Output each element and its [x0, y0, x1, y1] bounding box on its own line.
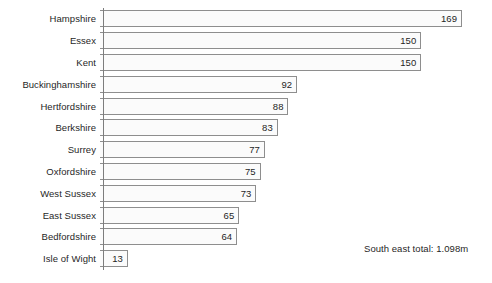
category-label: Essex [0, 35, 100, 46]
bar-value-label: 150 [400, 57, 416, 68]
bar-value-label: 83 [262, 122, 273, 133]
bar-value-label: 73 [241, 188, 252, 199]
bar-row: West Sussex73 [0, 182, 492, 204]
y-axis-line [103, 8, 104, 270]
category-label: Hampshire [0, 13, 100, 24]
bar: 13 [100, 250, 128, 267]
bar-value-label: 75 [245, 166, 256, 177]
bar: 83 [100, 119, 278, 136]
bar-row: Hertfordshire88 [0, 95, 492, 117]
bar: 65 [100, 207, 239, 224]
bar-value-label: 88 [273, 101, 284, 112]
bar-track: 77 [100, 139, 492, 161]
bar-row: Essex150 [0, 30, 492, 52]
bar-value-label: 77 [249, 144, 260, 155]
bar-row: East Sussex65 [0, 204, 492, 226]
chart-annotation-total: South east total: 1.098m [364, 243, 468, 255]
bar-track: 65 [100, 204, 492, 226]
category-label: East Sussex [0, 210, 100, 221]
bar-row: Surrey77 [0, 139, 492, 161]
bar-chart: Hampshire169Essex150Kent150Buckinghamshi… [0, 0, 492, 283]
bar-value-label: 92 [281, 79, 292, 90]
bar: 64 [100, 228, 237, 245]
bar-row: Oxfordshire75 [0, 161, 492, 183]
bar-track: 75 [100, 161, 492, 183]
bar-value-label: 65 [224, 210, 235, 221]
bar-value-label: 150 [400, 35, 416, 46]
bar: 77 [100, 141, 265, 158]
category-label: Bedfordshire [0, 231, 100, 242]
bar-track: 83 [100, 117, 492, 139]
category-label: West Sussex [0, 188, 100, 199]
category-label: Oxfordshire [0, 166, 100, 177]
bar: 169 [100, 10, 462, 27]
bar-track: 169 [100, 8, 492, 30]
bar-track: 150 [100, 52, 492, 74]
bar-track: 88 [100, 95, 492, 117]
category-label: Surrey [0, 144, 100, 155]
bar: 75 [100, 163, 261, 180]
bar-track: 150 [100, 30, 492, 52]
bar-value-label: 64 [221, 231, 232, 242]
category-label: Isle of Wight [0, 253, 100, 264]
bar-value-label: 13 [112, 253, 123, 264]
bar: 73 [100, 185, 256, 202]
bar-track: 73 [100, 182, 492, 204]
bar: 150 [100, 54, 421, 71]
bar-row: Berkshire83 [0, 117, 492, 139]
bar-row: Hampshire169 [0, 8, 492, 30]
bar-track: 92 [100, 73, 492, 95]
category-label: Kent [0, 57, 100, 68]
bar-value-label: 169 [441, 13, 457, 24]
bar: 88 [100, 98, 288, 115]
bar: 92 [100, 76, 297, 93]
category-label: Hertfordshire [0, 101, 100, 112]
bar-row: Buckinghamshire92 [0, 73, 492, 95]
bar-row: Kent150 [0, 52, 492, 74]
category-label: Berkshire [0, 122, 100, 133]
category-label: Buckinghamshire [0, 79, 100, 90]
bar: 150 [100, 32, 421, 49]
plot-area: Hampshire169Essex150Kent150Buckinghamshi… [0, 8, 492, 270]
